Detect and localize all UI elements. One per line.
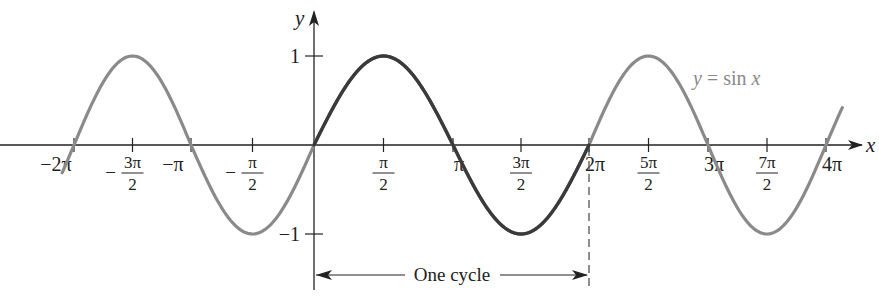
function-label: y = sin x bbox=[691, 67, 761, 90]
svg-text:2: 2 bbox=[248, 175, 257, 194]
x-tick-label-fraction: 3π2− bbox=[105, 153, 143, 194]
y-tick-label: −1 bbox=[279, 223, 300, 245]
svg-text:2: 2 bbox=[379, 175, 388, 194]
x-tick-label-fraction: 5π2 bbox=[638, 153, 660, 194]
x-tick-label-fraction: π2 bbox=[373, 153, 395, 194]
svg-text:2: 2 bbox=[128, 175, 137, 194]
svg-text:3π: 3π bbox=[124, 153, 142, 172]
x-tick-label: 4π bbox=[822, 153, 842, 175]
svg-text:π: π bbox=[248, 153, 257, 172]
x-tick-label-fraction: π2− bbox=[225, 153, 263, 194]
svg-text:7π: 7π bbox=[758, 153, 776, 172]
x-tick-label: 2π bbox=[585, 153, 605, 175]
x-axis-label: x bbox=[865, 133, 876, 157]
y-tick-label: 1 bbox=[290, 45, 300, 67]
svg-text:−: − bbox=[105, 162, 116, 183]
svg-text:5π: 5π bbox=[640, 153, 658, 172]
svg-text:2: 2 bbox=[644, 175, 653, 194]
x-tick-label-fraction: 7π2 bbox=[756, 153, 778, 194]
svg-text:2: 2 bbox=[517, 175, 526, 194]
svg-text:−: − bbox=[225, 162, 236, 183]
svg-text:2: 2 bbox=[763, 175, 772, 194]
y-axis-label: y bbox=[293, 6, 305, 30]
cycle-label: One cycle bbox=[414, 264, 490, 285]
x-tick-label: −π bbox=[162, 153, 183, 175]
x-tick-label-fraction: 3π2 bbox=[510, 153, 532, 194]
svg-text:3π: 3π bbox=[512, 153, 530, 172]
x-ticks: −2π3π2−−ππ2−π2π3π22π5π23π7π24π bbox=[40, 138, 842, 194]
svg-text:π: π bbox=[379, 153, 388, 172]
sine-chart: −2π3π2−−ππ2−π2π3π22π5π23π7π24π 1−1 One c… bbox=[0, 0, 879, 301]
